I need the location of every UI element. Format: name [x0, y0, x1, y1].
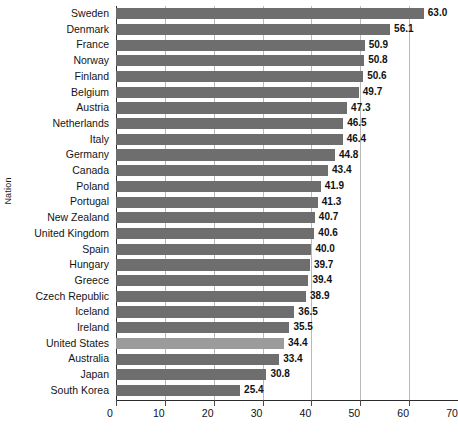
bar-row[interactable]: 36.5 — [116, 304, 458, 320]
bar-value-label: 50.6 — [367, 70, 386, 82]
bar-row[interactable]: 39.7 — [116, 257, 458, 273]
bar[interactable] — [116, 212, 315, 223]
category-label: Portugal — [70, 194, 109, 210]
bar-row[interactable]: 49.7 — [116, 85, 458, 101]
bar[interactable] — [116, 24, 390, 35]
bar[interactable] — [116, 275, 308, 286]
bar[interactable] — [116, 306, 294, 317]
bar-row[interactable]: 38.9 — [116, 289, 458, 305]
bar-row[interactable]: 41.9 — [116, 179, 458, 195]
bar-value-label: 34.4 — [288, 337, 307, 349]
bar-value-label: 40.0 — [315, 243, 334, 255]
category-label: France — [76, 37, 109, 53]
bar-row[interactable]: 40.6 — [116, 226, 458, 242]
bar[interactable] — [116, 40, 365, 51]
category-label: New Zealand — [47, 210, 109, 226]
x-tick-label: 50 — [348, 407, 360, 419]
bar[interactable] — [116, 134, 343, 145]
x-tick-label: 10 — [153, 407, 165, 419]
bar-row[interactable]: 50.9 — [116, 37, 458, 53]
bar-value-label: 49.7 — [363, 86, 382, 98]
bar[interactable] — [116, 181, 321, 192]
bar-row[interactable]: 50.8 — [116, 53, 458, 69]
bar[interactable] — [116, 55, 364, 66]
bar-row[interactable]: 47.3 — [116, 100, 458, 116]
bar-row[interactable]: 30.8 — [116, 367, 458, 383]
category-label: Ireland — [77, 320, 109, 336]
x-tick-mark — [165, 400, 166, 406]
bar-row[interactable]: 34.4 — [116, 336, 458, 352]
bar[interactable] — [116, 369, 266, 380]
bar-value-label: 43.4 — [332, 164, 351, 176]
bar[interactable] — [116, 385, 240, 396]
bar-value-label: 50.9 — [369, 39, 388, 51]
x-axis-title — [116, 429, 458, 435]
category-label: Czech Republic — [35, 289, 109, 305]
x-tick-mark — [311, 400, 312, 406]
bar-row[interactable]: 40.0 — [116, 242, 458, 258]
bar[interactable] — [116, 71, 363, 82]
bar-row[interactable]: 56.1 — [116, 22, 458, 38]
category-label: Denmark — [66, 22, 109, 38]
bar[interactable] — [116, 338, 284, 349]
category-label: Canada — [72, 163, 109, 179]
x-tick-mark — [360, 400, 361, 406]
x-tick-label: 30 — [251, 407, 263, 419]
category-label: Finland — [75, 69, 109, 85]
category-label: United Kingdom — [34, 226, 109, 242]
bar-value-label: 33.4 — [283, 353, 302, 365]
bar-value-label: 25.4 — [244, 384, 263, 396]
bar[interactable] — [116, 8, 424, 19]
x-axis-ticks: 010203040506070 — [116, 400, 458, 430]
x-tick-label: 40 — [300, 407, 312, 419]
bar-value-label: 56.1 — [394, 23, 413, 35]
bar-value-label: 46.4 — [347, 133, 366, 145]
bar-row[interactable]: 46.4 — [116, 132, 458, 148]
bar-row[interactable]: 43.4 — [116, 163, 458, 179]
bar-row[interactable]: 63.0 — [116, 6, 458, 22]
bar-row[interactable]: 39.4 — [116, 273, 458, 289]
category-label: Netherlands — [52, 116, 109, 132]
category-label: Hungary — [69, 257, 109, 273]
bar[interactable] — [116, 259, 310, 270]
bar[interactable] — [116, 102, 347, 113]
bar[interactable] — [116, 354, 279, 365]
category-label: Austria — [76, 100, 109, 116]
bar-value-label: 39.7 — [314, 259, 333, 271]
category-label: United States — [46, 336, 109, 352]
bar-row[interactable]: 46.5 — [116, 116, 458, 132]
bar[interactable] — [116, 197, 318, 208]
bar-row[interactable]: 50.6 — [116, 69, 458, 85]
bar-row[interactable]: 35.5 — [116, 320, 458, 336]
bar[interactable] — [116, 291, 306, 302]
bar-value-label: 35.5 — [293, 321, 312, 333]
category-label: Spain — [82, 242, 109, 258]
bar[interactable] — [116, 228, 314, 239]
category-label: South Korea — [51, 383, 109, 399]
bar-chart: Nation SwedenDenmarkFranceNorwayFinlandB… — [0, 0, 458, 435]
bar[interactable] — [116, 165, 328, 176]
x-tick-label: 60 — [397, 407, 409, 419]
bar-value-label: 46.5 — [347, 117, 366, 129]
category-label: Italy — [90, 132, 109, 148]
bar-row[interactable]: 44.8 — [116, 147, 458, 163]
category-label: Iceland — [75, 304, 109, 320]
bar-value-label: 30.8 — [270, 368, 289, 380]
bar[interactable] — [116, 118, 343, 129]
category-label: Japan — [80, 367, 109, 383]
category-label: Sweden — [71, 6, 109, 22]
bar-row[interactable]: 41.3 — [116, 194, 458, 210]
category-label: Belgium — [71, 85, 109, 101]
x-tick-mark — [263, 400, 264, 406]
bar-row[interactable]: 40.7 — [116, 210, 458, 226]
bar[interactable] — [116, 244, 311, 255]
category-label: Australia — [68, 351, 109, 367]
bar-value-label: 40.6 — [318, 227, 337, 239]
bar-row[interactable]: 33.4 — [116, 351, 458, 367]
category-label: Germany — [66, 147, 109, 163]
bar-row[interactable]: 25.4 — [116, 383, 458, 399]
bar[interactable] — [116, 322, 289, 333]
bar[interactable] — [116, 149, 335, 160]
bar[interactable] — [116, 87, 359, 98]
bar-value-label: 36.5 — [298, 306, 317, 318]
